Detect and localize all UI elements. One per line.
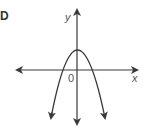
y-axis-label: y xyxy=(65,11,71,23)
parabola-curve xyxy=(51,50,105,118)
parabola-graph xyxy=(0,0,147,127)
origin-label: 0 xyxy=(68,72,74,84)
x-axis-label: x xyxy=(132,72,138,84)
